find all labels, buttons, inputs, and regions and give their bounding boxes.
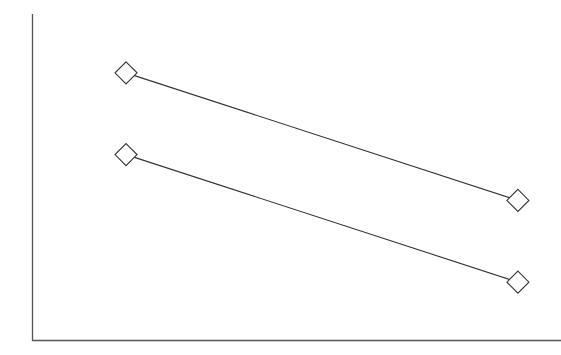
diamond-marker-icon [115, 62, 137, 84]
diamond-marker-icon [115, 144, 137, 166]
line-chart [0, 0, 561, 355]
series-1 [115, 62, 529, 212]
series-line [126, 73, 518, 201]
diamond-marker-icon [507, 189, 529, 211]
diamond-marker-icon [507, 271, 529, 293]
series-2 [115, 144, 529, 294]
series-layer [115, 62, 529, 293]
series-line [126, 155, 518, 283]
